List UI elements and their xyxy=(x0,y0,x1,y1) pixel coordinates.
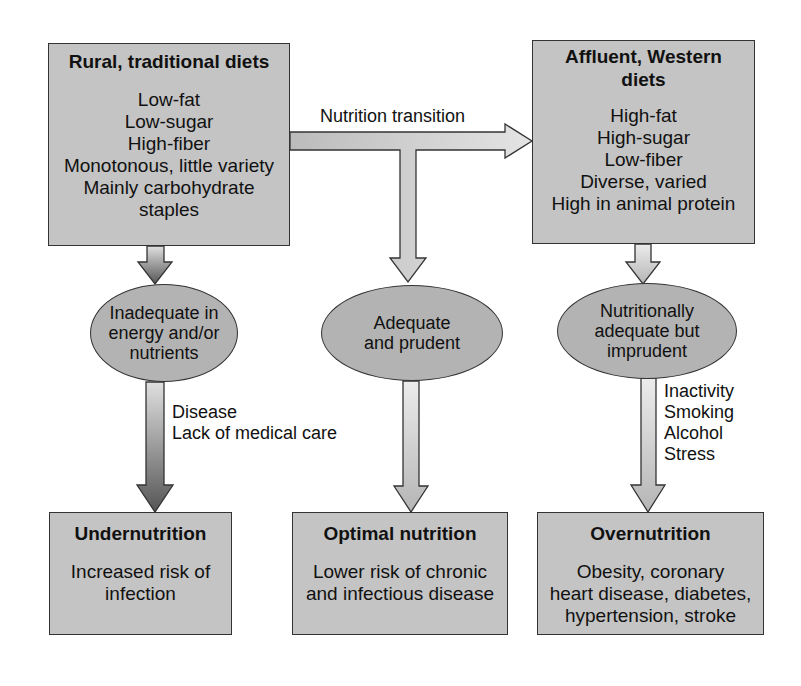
inadequate-ellipse: Inadequate in energy and/or nutrients xyxy=(90,284,238,382)
western-diets-box: Affluent, Western diets High-fat High-su… xyxy=(532,40,755,244)
rural-item: Low-sugar xyxy=(49,111,289,133)
ellipse-line: and prudent xyxy=(364,333,460,353)
undernutrition-line: Increased risk of xyxy=(50,561,231,583)
rural-item: Mainly carbohydrate xyxy=(49,177,289,199)
western-diets-title-2: diets xyxy=(533,68,754,91)
factor-inactivity: Inactivity xyxy=(664,381,734,402)
western-item: High-sugar xyxy=(533,127,754,149)
undernutrition-box: Undernutrition Increased risk of infecti… xyxy=(49,512,232,635)
factor-disease: Disease xyxy=(172,402,337,423)
western-item: High-fat xyxy=(533,105,754,127)
ellipse-line: energy and/or xyxy=(108,323,219,343)
factor-medical-care: Lack of medical care xyxy=(172,423,337,444)
optimal-line: and infectious disease xyxy=(293,583,507,605)
factor-smoking: Smoking xyxy=(664,402,734,423)
rural-diets-box: Rural, traditional diets Low-fat Low-sug… xyxy=(48,43,290,246)
rural-item: Low-fat xyxy=(49,89,289,111)
overnutrition-box: Overnutrition Obesity, coronary heart di… xyxy=(537,512,764,635)
right-down-arrow-2 xyxy=(631,378,665,512)
transition-arrow xyxy=(290,124,532,282)
overnutrition-line: Obesity, coronary xyxy=(538,561,763,583)
ellipse-line: Inadequate in xyxy=(108,303,219,323)
right-down-arrow-1 xyxy=(626,244,660,284)
factor-alcohol: Alcohol xyxy=(664,423,734,444)
adequate-prudent-ellipse: Adequate and prudent xyxy=(321,285,503,381)
middle-down-arrow xyxy=(394,381,428,512)
ellipse-line: Nutritionally xyxy=(594,301,699,321)
left-factors: Disease Lack of medical care xyxy=(172,402,337,444)
left-down-arrow-1 xyxy=(138,246,172,284)
undernutrition-line: infection xyxy=(50,583,231,605)
ellipse-line: nutrients xyxy=(108,343,219,363)
left-down-arrow-2 xyxy=(137,382,173,512)
ellipse-line: Adequate xyxy=(364,313,460,333)
undernutrition-title: Undernutrition xyxy=(50,522,231,545)
overnutrition-line: heart disease, diabetes, xyxy=(538,583,763,605)
ellipse-line: adequate but xyxy=(594,321,699,341)
western-item: Diverse, varied xyxy=(533,171,754,193)
right-factors: Inactivity Smoking Alcohol Stress xyxy=(664,381,734,465)
western-item: High in animal protein xyxy=(533,193,754,215)
western-item: Low-fiber xyxy=(533,149,754,171)
rural-item: High-fiber xyxy=(49,133,289,155)
transition-label: Nutrition transition xyxy=(320,106,465,127)
rural-diets-title: Rural, traditional diets xyxy=(49,50,289,73)
western-diets-title-1: Affluent, Western xyxy=(533,45,754,68)
rural-item: staples xyxy=(49,199,289,221)
optimal-nutrition-box: Optimal nutrition Lower risk of chronic … xyxy=(292,512,508,635)
overnutrition-title: Overnutrition xyxy=(538,522,763,545)
optimal-line: Lower risk of chronic xyxy=(293,561,507,583)
optimal-nutrition-title: Optimal nutrition xyxy=(293,522,507,545)
ellipse-line: imprudent xyxy=(594,341,699,361)
imprudent-ellipse: Nutritionally adequate but imprudent xyxy=(557,283,737,379)
overnutrition-line: hypertension, stroke xyxy=(538,605,763,627)
factor-stress: Stress xyxy=(664,444,734,465)
rural-item: Monotonous, little variety xyxy=(49,155,289,177)
